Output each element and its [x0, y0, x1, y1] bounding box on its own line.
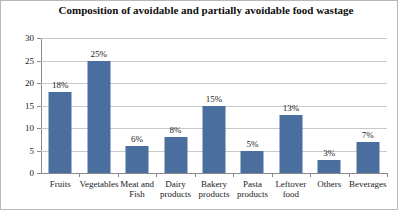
- bar-slot: 18%: [41, 38, 79, 173]
- bar[interactable]: [126, 146, 149, 173]
- x-axis-tick-mark: [310, 173, 311, 177]
- bar-value-label: 7%: [362, 130, 374, 140]
- x-axis-category-label: Pasta products: [233, 179, 271, 199]
- bar-value-label: 8%: [170, 125, 182, 135]
- x-axis-tick-mark: [233, 173, 234, 177]
- x-axis-category-label: Beverages: [349, 179, 387, 189]
- y-axis-tick-label: 0: [1, 168, 34, 178]
- bar[interactable]: [87, 61, 110, 174]
- x-axis-category-label: Dairy products: [156, 179, 194, 199]
- x-axis-tick-mark: [118, 173, 119, 177]
- bar[interactable]: [318, 160, 341, 174]
- x-axis-category-label: Meat and Fish: [118, 179, 156, 199]
- x-axis-category-label: Fruits: [41, 179, 79, 189]
- bar-slot: 8%: [156, 38, 194, 173]
- y-axis-tick-mark: [37, 83, 41, 84]
- y-axis-tick-mark: [37, 151, 41, 152]
- bar-slot: 5%: [233, 38, 271, 173]
- chart-container: Composition of avoidable and partially a…: [0, 0, 398, 210]
- bar-value-label: 15%: [206, 94, 223, 104]
- bar-value-label: 5%: [246, 139, 258, 149]
- bar-slot: 3%: [310, 38, 348, 173]
- bar[interactable]: [164, 137, 187, 173]
- x-axis-tick-mark: [195, 173, 196, 177]
- y-axis-tick-mark: [37, 106, 41, 107]
- bar[interactable]: [241, 151, 264, 174]
- y-axis-tick-mark: [37, 173, 41, 174]
- bar-slot: 25%: [79, 38, 117, 173]
- bar[interactable]: [356, 142, 379, 174]
- y-axis-tick-label: 10: [1, 123, 34, 133]
- bar-value-label: 3%: [323, 148, 335, 158]
- bar-slot: 6%: [118, 38, 156, 173]
- bar[interactable]: [279, 115, 302, 174]
- x-axis-line: [41, 173, 387, 174]
- x-axis-tick-mark: [272, 173, 273, 177]
- y-axis-tick-label: 5: [1, 146, 34, 156]
- x-axis-tick-mark: [349, 173, 350, 177]
- y-axis-tick-mark: [37, 61, 41, 62]
- x-axis-category-label: Bakery products: [195, 179, 233, 199]
- bar-value-label: 6%: [131, 134, 143, 144]
- y-axis-tick-label: 25: [1, 56, 34, 66]
- bar-value-label: 13%: [283, 103, 300, 113]
- x-axis-category-label: Others: [310, 179, 348, 189]
- bar[interactable]: [202, 106, 225, 174]
- bar[interactable]: [49, 92, 72, 173]
- y-axis-tick-label: 20: [1, 78, 34, 88]
- y-axis-tick-mark: [37, 38, 41, 39]
- x-axis-tick-mark: [387, 173, 388, 177]
- chart-title: Composition of avoidable and partially a…: [31, 4, 381, 17]
- bar-slot: 7%: [349, 38, 387, 173]
- x-axis-tick-mark: [79, 173, 80, 177]
- bar-value-label: 25%: [90, 49, 107, 59]
- bar-slot: 13%: [272, 38, 310, 173]
- x-axis-tick-mark: [156, 173, 157, 177]
- x-axis-category-label: Leftover food: [272, 179, 310, 199]
- bar-value-label: 18%: [52, 80, 69, 90]
- y-axis-tick-label: 15: [1, 101, 34, 111]
- bar-slot: 15%: [195, 38, 233, 173]
- plot-area: 18%25%6%8%15%5%13%3%7%: [41, 38, 387, 173]
- x-axis-category-label: Vegetables: [79, 179, 117, 189]
- y-axis-tick-label: 30: [1, 33, 34, 43]
- y-axis-tick-mark: [37, 128, 41, 129]
